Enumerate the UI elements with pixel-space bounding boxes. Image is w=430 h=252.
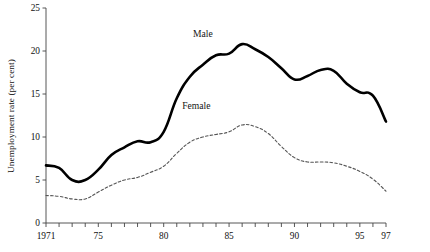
x-axis-tick-label: 95 [355,231,365,241]
plot-background [0,0,430,252]
y-axis-tick-label: 10 [31,132,41,142]
y-axis-tick-label: 20 [31,46,41,56]
y-axis-tick-label: 5 [35,175,40,185]
y-axis-tick-label: 0 [35,218,40,228]
y-axis-title: Unemployment rate (per cent) [6,59,16,173]
unemployment-rate-line-chart: 0510152025 1971758085909597 MaleFemale U… [0,0,430,252]
y-axis-tick-label: 15 [31,89,41,99]
chart-container: 0510152025 1971758085909597 MaleFemale U… [0,0,430,252]
y-axis-tick-label: 25 [31,3,41,13]
x-axis-tick-label: 85 [224,231,234,241]
series-label-female: Female [182,100,210,111]
x-axis-tick-label: 90 [290,231,300,241]
x-axis-tick-label: 1971 [37,231,56,241]
x-axis-tick-label: 75 [94,231,104,241]
series-label-male: Male [193,28,213,39]
x-axis-tick-label: 80 [159,231,169,241]
x-axis-tick-label: 97 [381,231,391,241]
